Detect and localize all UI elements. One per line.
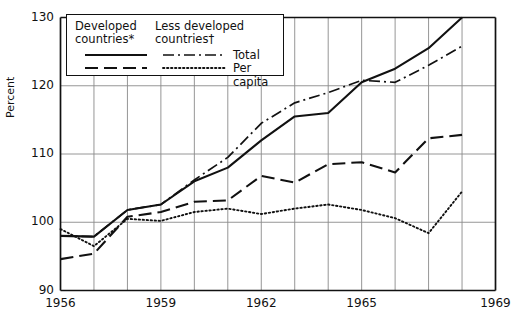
x-tick-label-1962: 1962: [231, 296, 291, 310]
y-tick-label-90: 90: [20, 283, 54, 297]
x-tick-label-1956: 1956: [31, 296, 91, 310]
y-axis-label: Percent: [4, 77, 17, 118]
y-tick-label-100: 100: [20, 214, 54, 228]
chart-figure: Percent 90100110120130 19561959196219651…: [0, 0, 511, 334]
legend-label-per-capita: Per capita: [233, 61, 283, 89]
x-tick-label-1959: 1959: [131, 296, 191, 310]
y-tick-label-130: 130: [20, 10, 54, 24]
y-tick-label-110: 110: [20, 146, 54, 160]
legend-label-total: Total: [233, 48, 260, 62]
x-tick-label-1965: 1965: [332, 296, 392, 310]
y-tick-label-120: 120: [20, 78, 54, 92]
chart-legend: Developed countries* Less developed coun…: [66, 14, 284, 76]
x-tick-label-1969: 1969: [466, 296, 511, 310]
